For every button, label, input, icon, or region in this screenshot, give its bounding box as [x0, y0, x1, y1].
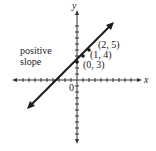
annotation-slope: slope — [20, 57, 41, 67]
point-0-3 — [75, 60, 79, 64]
x-axis-label: x — [144, 75, 148, 85]
y-axis-label: y — [72, 1, 76, 11]
x-axis-left-arrow-icon — [12, 78, 17, 82]
x-axis-right-arrow-icon — [137, 78, 142, 82]
annotation-positive: positive — [20, 46, 52, 56]
point-1-4 — [81, 54, 85, 58]
origin-label: 0 — [69, 83, 74, 93]
point-label-0-3: (0, 3) — [83, 60, 105, 70]
y-axis-down-arrow-icon — [75, 139, 79, 144]
coordinate-plane — [0, 0, 156, 151]
